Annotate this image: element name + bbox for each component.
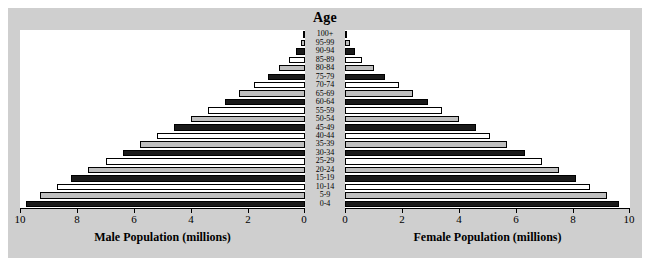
bar <box>88 167 305 173</box>
bar <box>345 124 476 130</box>
bar-row <box>20 132 305 140</box>
bar-row <box>345 149 630 157</box>
bar-row <box>345 106 630 114</box>
bar-row <box>20 200 305 208</box>
bar <box>157 133 305 139</box>
axis-line-male <box>20 208 305 209</box>
bar <box>40 192 305 198</box>
x-axis-male: 0246810 <box>20 208 305 218</box>
bar-row <box>20 64 305 72</box>
bar-row <box>345 132 630 140</box>
bar-row <box>345 183 630 191</box>
bar <box>296 48 305 54</box>
axis-tick-label: 2 <box>245 213 251 225</box>
bar-row <box>20 183 305 191</box>
bar-row <box>20 191 305 199</box>
bar <box>174 124 305 130</box>
bar <box>345 99 428 105</box>
bar <box>225 99 305 105</box>
bar-row <box>345 89 630 97</box>
bar <box>345 141 507 147</box>
bar <box>345 31 347 37</box>
bar <box>345 74 385 80</box>
bar-row <box>345 47 630 55</box>
bar <box>345 192 607 198</box>
bar <box>345 175 576 181</box>
bar-row <box>345 140 630 148</box>
bar <box>140 141 305 147</box>
bar-row <box>345 64 630 72</box>
axis-tick-label: 4 <box>456 213 462 225</box>
bar-row <box>20 140 305 148</box>
axis-tick-label: 8 <box>570 213 576 225</box>
bar <box>345 167 559 173</box>
bar-row <box>20 98 305 106</box>
bar-series-female <box>345 30 630 208</box>
bar <box>345 116 459 122</box>
axis-tick-label: 4 <box>188 213 194 225</box>
bar-row <box>20 149 305 157</box>
bar <box>345 40 350 46</box>
bar-row <box>345 200 630 208</box>
bar <box>345 90 413 96</box>
bar-row <box>20 56 305 64</box>
bar-row <box>20 30 305 38</box>
axis-tick-label: 10 <box>15 213 26 225</box>
axis-tick-label: 10 <box>624 213 635 225</box>
bar-row <box>345 191 630 199</box>
bar-row <box>345 174 630 182</box>
bar <box>106 158 306 164</box>
bar <box>345 65 374 71</box>
bar <box>239 90 305 96</box>
axis-tick-label: 0 <box>301 213 307 225</box>
x-axis-female: 0246810 <box>345 208 630 218</box>
bar-row <box>345 98 630 106</box>
axis-tick-label: 2 <box>399 213 405 225</box>
x-axis-title-male: Male Population (millions) <box>20 230 305 245</box>
bar-row <box>20 39 305 47</box>
axis-tick-label: 8 <box>74 213 80 225</box>
axis-tick-label: 0 <box>342 213 348 225</box>
age-label-column: 0-45-910-1415-1920-2425-2930-3435-3940-4… <box>305 30 345 208</box>
bar-row <box>345 39 630 47</box>
bar <box>345 57 362 63</box>
bar-row <box>345 73 630 81</box>
x-axis-title-female: Female Population (millions) <box>345 230 630 245</box>
bar-row <box>20 115 305 123</box>
bar <box>345 201 619 207</box>
bar <box>123 150 305 156</box>
bar <box>345 184 590 190</box>
bar-series-male <box>20 30 305 208</box>
bar-row <box>345 30 630 38</box>
bar-row <box>20 89 305 97</box>
bar-row <box>345 115 630 123</box>
bar-row <box>345 157 630 165</box>
bar-row <box>345 81 630 89</box>
bar-row <box>20 157 305 165</box>
bar <box>345 150 525 156</box>
bar <box>26 201 305 207</box>
bar <box>191 116 305 122</box>
bar-row <box>345 56 630 64</box>
bar <box>254 82 305 88</box>
bar-row <box>20 81 305 89</box>
bar <box>208 107 305 113</box>
bar-row <box>20 123 305 131</box>
bar <box>345 48 355 54</box>
bar <box>345 158 542 164</box>
bar <box>268 74 305 80</box>
bar <box>345 107 442 113</box>
bar <box>57 184 305 190</box>
chart-title: Age <box>8 10 642 26</box>
bar <box>345 133 490 139</box>
population-pyramid-figure: Age 0-45-910-1415-1920-2425-2930-3435-39… <box>8 8 642 258</box>
bar <box>345 82 399 88</box>
bar-row <box>345 166 630 174</box>
bar <box>289 57 305 63</box>
bar-row <box>345 123 630 131</box>
bar <box>279 65 305 71</box>
age-label: 0-4 <box>305 200 345 208</box>
bar <box>71 175 305 181</box>
bar-row <box>20 166 305 174</box>
bar-row <box>20 73 305 81</box>
